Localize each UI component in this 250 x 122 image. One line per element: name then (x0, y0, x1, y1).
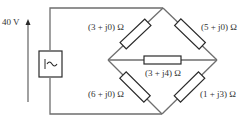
voltage-arrow (26, 19, 31, 102)
resistor-middle (144, 56, 181, 64)
ac-source-box (39, 51, 62, 77)
arrow-up-icon (26, 19, 31, 25)
bridge-circuit-diagram: 40 V (3 + j0) Ω (5 + j0) Ω (3 (0, 0, 250, 122)
impedance-label-middle: (3 + j4) Ω (145, 68, 181, 78)
impedance-label-top-right: (5 + j0) Ω (201, 22, 237, 32)
ac-source (39, 51, 62, 77)
voltage-label: 40 V (2, 17, 20, 27)
impedance-label-bottom-right: (1 + j3) Ω (200, 89, 236, 99)
impedance-label-bottom-left: (6 + j0) Ω (88, 89, 124, 99)
resistor-top-left (120, 19, 151, 49)
impedance-label-top-left: (3 + j0) Ω (88, 22, 124, 32)
